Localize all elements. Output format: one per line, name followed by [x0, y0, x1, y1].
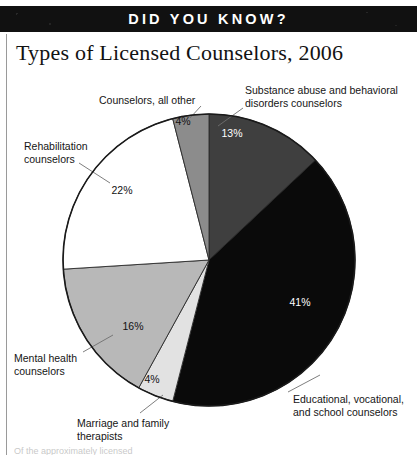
slice-callout-label: Substance abuse and behavioral disorders… — [245, 84, 398, 109]
pie-chart: 13%41%4%16%22%4% — [0, 0, 417, 455]
pie-chart-svg: 13%41%4%16%22%4% — [0, 0, 417, 455]
slice-callout-label: Rehabilitation counselors — [24, 140, 88, 165]
slice-percent-label: 41% — [289, 296, 310, 308]
slice-percent-label: 4% — [144, 373, 159, 385]
slice-callout-label: Educational, vocational, and school coun… — [293, 393, 404, 418]
slice-percent-label: 13% — [221, 127, 242, 139]
slice-callout-label: Marriage and family therapists — [77, 417, 169, 442]
slice-percent-label: 16% — [122, 320, 143, 332]
pie-slice-group — [63, 114, 355, 406]
slice-callout-label: Counselors, all other — [99, 94, 195, 107]
bottom-caption-clipped: Of the approximately licensed — [14, 446, 404, 455]
slice-callout-label: Mental health counselors — [14, 352, 77, 377]
slice-percent-label: 4% — [175, 115, 190, 127]
slice-percent-label: 22% — [111, 184, 132, 196]
page-root: DID YOU KNOW? Types of Licensed Counselo… — [0, 0, 417, 455]
